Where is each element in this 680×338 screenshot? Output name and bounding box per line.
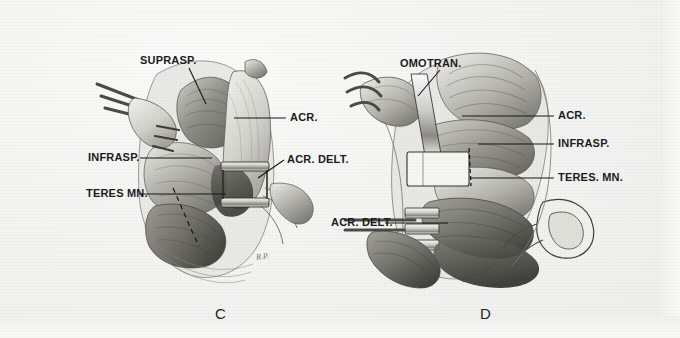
label-omotran: OMOTRAN.: [400, 58, 461, 69]
page-edge-bottom: [0, 316, 680, 338]
page-edge-right: [660, 0, 680, 338]
label-teres-mn-right: TERES. MN.: [558, 172, 623, 183]
label-infrasp-left: INFRASP.: [88, 152, 140, 163]
panel-letter-c: C: [215, 305, 226, 322]
panel-d-drawing: [345, 34, 610, 294]
label-suprasp: SUPRASP.: [140, 55, 196, 66]
artist-signature-c: R.P.: [255, 251, 269, 262]
figure-panel-c: [95, 38, 355, 293]
acromion-tip: [245, 60, 267, 78]
retractor-paddle: [407, 152, 469, 186]
figure-panel-d: [345, 34, 610, 294]
label-acr-delt-left: ACR. DELT.: [287, 154, 349, 165]
label-acr-delt-right: ACR. DELT.: [331, 217, 393, 228]
lateral-tissue-fold: [270, 183, 313, 224]
label-acr-left: ACR.: [290, 112, 318, 123]
label-infrasp-right: INFRASP.: [558, 138, 610, 149]
label-acr-right: ACR.: [558, 110, 586, 121]
label-teres-mn-left: TERES MN.: [86, 188, 148, 199]
panel-letter-d: D: [480, 305, 491, 322]
panel-c-drawing: [95, 38, 355, 293]
artist-signature-d: R.P.: [499, 263, 513, 274]
